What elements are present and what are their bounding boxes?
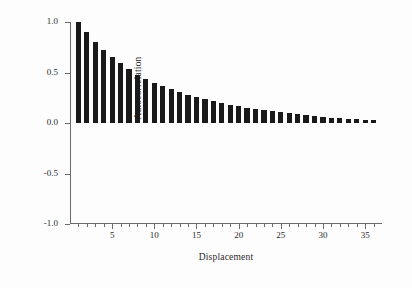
x-tick-minor-11 (188, 224, 189, 227)
bar (211, 101, 216, 123)
x-tick-minor-15 (230, 224, 231, 227)
y-tick-label-1: 0.5 (47, 67, 58, 77)
x-tick-minor-2 (95, 224, 96, 227)
bar (177, 92, 182, 123)
x-tick-minor-7 (146, 224, 147, 227)
bar (287, 113, 292, 123)
autocorrelation-chart-figure: Autocorrelation 1.00.50.0-0.5-1.0 510152… (0, 0, 412, 288)
bar (303, 115, 308, 123)
x-tick-label-4: 25 (269, 230, 293, 240)
x-tick-minor-10 (180, 224, 181, 227)
bar (135, 75, 140, 123)
y-tick-label-4: -1.0 (44, 218, 58, 228)
x-tick-minor-18 (264, 224, 265, 227)
x-tick-minor-0 (78, 224, 79, 227)
bar-series (70, 22, 382, 224)
x-tick-minor-19 (272, 224, 273, 227)
x-tick-label-3: 20 (227, 230, 251, 240)
bar (202, 99, 207, 123)
bar (354, 119, 359, 123)
bar (194, 97, 199, 123)
x-tick-label-6: 35 (353, 230, 377, 240)
bar (219, 103, 224, 123)
bar (329, 118, 334, 123)
bar (253, 109, 258, 123)
bar (228, 105, 233, 123)
x-tick-major-4 (281, 224, 282, 229)
x-tick-major-5 (323, 224, 324, 229)
bar (76, 22, 81, 123)
x-tick-minor-6 (137, 224, 138, 227)
x-tick-minor-24 (331, 224, 332, 227)
bar (371, 120, 376, 123)
bar (236, 106, 241, 123)
bar (169, 89, 174, 123)
y-tick-label-2: 0.0 (47, 117, 58, 127)
bar (118, 63, 123, 123)
plot-area: 1.00.50.0-0.5-1.0 5101520253035 (70, 22, 382, 224)
bar (320, 117, 325, 123)
x-tick-minor-20 (289, 224, 290, 227)
bar (185, 95, 190, 123)
bar (84, 32, 89, 123)
x-tick-minor-28 (374, 224, 375, 227)
x-tick-minor-8 (163, 224, 164, 227)
bar (337, 118, 342, 123)
x-tick-minor-3 (104, 224, 105, 227)
x-tick-minor-25 (340, 224, 341, 227)
x-tick-minor-12 (205, 224, 206, 227)
y-tick-label-0: 1.0 (47, 16, 58, 26)
bar (346, 119, 351, 123)
bar (93, 42, 98, 123)
x-tick-minor-22 (306, 224, 307, 227)
x-tick-label-2: 15 (184, 230, 208, 240)
bar (244, 108, 249, 123)
x-tick-major-1 (154, 224, 155, 229)
x-tick-label-5: 30 (311, 230, 335, 240)
x-tick-label-1: 10 (142, 230, 166, 240)
bar (110, 57, 115, 123)
bar (143, 79, 148, 123)
x-axis-title: Displacement (70, 252, 382, 262)
y-tick-4: -1.0 (65, 224, 70, 225)
bar (270, 111, 275, 123)
bar (126, 69, 131, 123)
bar (160, 86, 165, 123)
bar (312, 116, 317, 123)
bar (101, 50, 106, 123)
x-tick-minor-5 (129, 224, 130, 227)
x-tick-minor-26 (348, 224, 349, 227)
x-tick-minor-27 (357, 224, 358, 227)
x-tick-major-0 (112, 224, 113, 229)
bar (295, 114, 300, 123)
x-tick-minor-23 (315, 224, 316, 227)
x-tick-minor-1 (87, 224, 88, 227)
x-tick-minor-17 (256, 224, 257, 227)
x-tick-minor-16 (247, 224, 248, 227)
bar (363, 120, 368, 123)
x-tick-minor-4 (121, 224, 122, 227)
x-tick-minor-14 (222, 224, 223, 227)
x-axis-title-text: Displacement (199, 252, 254, 262)
x-tick-major-2 (196, 224, 197, 229)
x-tick-minor-13 (213, 224, 214, 227)
bar (278, 112, 283, 123)
bar (261, 110, 266, 123)
x-tick-major-6 (365, 224, 366, 229)
x-tick-minor-21 (298, 224, 299, 227)
y-tick-label-3: -0.5 (44, 168, 58, 178)
x-tick-label-0: 5 (100, 230, 124, 240)
x-tick-minor-9 (171, 224, 172, 227)
bar (152, 83, 157, 123)
x-tick-major-3 (239, 224, 240, 229)
